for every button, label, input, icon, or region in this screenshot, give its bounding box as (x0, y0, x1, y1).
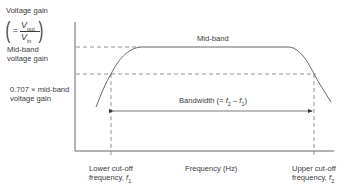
equals-sign: = (13, 26, 18, 35)
y-axis-title: Voltage gain (6, 6, 48, 15)
midband-region-label: Mid-band (197, 34, 229, 43)
upper-cutoff-label: Upper cut-off frequency, f2 (292, 164, 336, 186)
cutoff-gain-label: 0.707 × mid-band voltage gain (10, 85, 69, 104)
lower-cutoff-label: Lower cut-off frequency, f1 (89, 164, 133, 186)
gain-formula: ( = Vout Vin ) (6, 19, 46, 43)
left-paren: ( (6, 18, 11, 42)
midband-gain-label: Mid-band voltage gain (7, 45, 48, 64)
bandwidth-label: Bandwidth (= f2 – f1) (179, 96, 247, 109)
x-axis-title: Frequency (Hz) (185, 164, 237, 173)
right-paren: ) (39, 18, 44, 42)
denominator: Vin (21, 32, 31, 44)
